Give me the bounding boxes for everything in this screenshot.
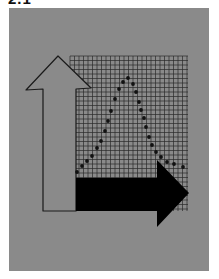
curve-dot: [103, 129, 107, 133]
curve-dot: [159, 155, 163, 159]
curve-dot: [165, 160, 169, 164]
curve-dot: [90, 154, 94, 158]
curve-dot: [150, 143, 154, 147]
curve-dot: [106, 119, 110, 123]
curve-dot: [85, 159, 89, 163]
curve-dot: [80, 164, 84, 168]
curve-dot: [144, 125, 148, 129]
curve-dot: [113, 97, 117, 101]
curve-dot: [154, 150, 158, 154]
growth-diagram: [0, 0, 219, 279]
curve-dot: [137, 100, 141, 104]
curve-dot: [134, 90, 138, 94]
curve-dot: [109, 109, 113, 113]
curve-dot: [139, 108, 143, 112]
curve-dot: [172, 162, 176, 166]
curve-dot: [131, 82, 135, 86]
curve-dot: [181, 165, 185, 169]
curve-dot: [121, 80, 125, 84]
curve-dot: [99, 139, 103, 143]
curve-dot: [95, 146, 99, 150]
curve-dot: [117, 87, 121, 91]
curve-dot: [147, 135, 151, 139]
curve-dot: [75, 170, 79, 174]
curve-dot: [126, 76, 130, 80]
right-arrow-icon: [76, 160, 189, 227]
curve-dot: [142, 116, 146, 120]
